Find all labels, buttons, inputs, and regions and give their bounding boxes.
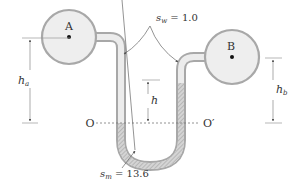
bulb-a: A [42,10,96,64]
bulb-b-label: B [227,40,235,53]
bulb-a-label: A [64,20,74,33]
datum-o-label: O [85,117,94,130]
h-b-label: hb [276,83,288,97]
point-a-dot [67,35,71,39]
point-b-dot [230,55,234,59]
bulb-b: B [205,30,259,84]
h-label: h [151,94,158,107]
datum-o-prime-label: O′ [203,117,215,130]
dimension-h: h [142,80,160,121]
s-m-label: sm = 13.6 [100,168,149,181]
dimension-h-b: hb [265,58,288,123]
manometer-diagram: A B O O′ ha hb h sw = 1.0 [0,0,296,189]
h-a-label: ha [18,74,29,88]
s-w-label: sw = 1.0 [156,12,198,25]
